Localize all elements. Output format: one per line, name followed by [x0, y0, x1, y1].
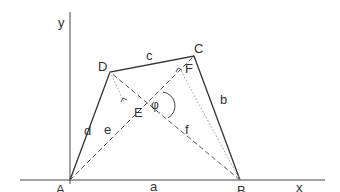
side-label-d: d [84, 123, 91, 138]
perpendicular-BF [180, 69, 240, 180]
side-label-c: c [146, 48, 153, 63]
side-label-b: b [220, 92, 227, 107]
diagonal-label-e: e [104, 122, 111, 137]
x-axis-label: x [296, 180, 303, 192]
diagonal-label-f: f [185, 122, 189, 137]
y-axis-label: y [58, 15, 65, 30]
angle-label-phi: φ [151, 98, 159, 112]
quadrilateral-diagram: y x A B C D a b c d e f E F φ [0, 0, 340, 192]
angle-arc-phi [163, 92, 175, 118]
side-label-a: a [150, 179, 158, 192]
diagonal-e-AC [70, 56, 194, 180]
vertex-label-C: C [194, 41, 203, 56]
vertex-label-A: A [56, 182, 65, 192]
foot-label-E: E [134, 105, 143, 120]
vertex-label-D: D [98, 59, 107, 74]
quadrilateral-sides [70, 56, 240, 180]
vertex-label-B: B [237, 183, 246, 192]
foot-label-F: F [185, 61, 193, 76]
